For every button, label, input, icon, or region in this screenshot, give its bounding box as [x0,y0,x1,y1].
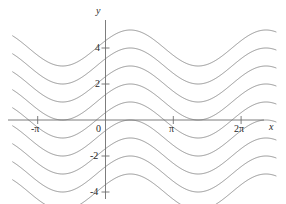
y-tick-label-4: 4 [95,43,100,53]
solution-curves-group [13,30,276,204]
plot-canvas [0,0,286,204]
solution-curve [13,30,276,66]
solution-curve [13,138,276,174]
solution-curve [13,156,276,192]
x-tick-label-2pi: 2π [234,124,244,134]
x-axis-label: x [269,122,273,132]
solution-curve [13,48,276,84]
x-tick-label-zero: 0 [96,124,101,134]
y-tick-label-2: 2 [95,79,100,89]
x-tick-label-neg-pi: -π [31,124,39,134]
y-axis-label: y [96,6,100,16]
plot-figure: -π 0 π 2π 4 2 -2 -4 x y [0,0,286,204]
y-tick-label-neg-4: -4 [90,187,98,197]
solution-curve [13,174,276,204]
axes-group [8,20,264,199]
solution-curve [13,84,276,120]
x-tick-label-pi: π [169,124,174,134]
solution-curve [13,66,276,102]
y-tick-label-neg-2: -2 [90,151,98,161]
